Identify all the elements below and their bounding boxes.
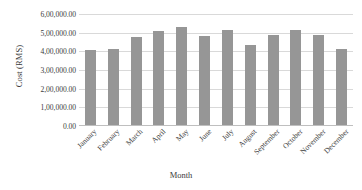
bar bbox=[199, 36, 210, 126]
y-axis-title-text: Cost (RMS) bbox=[14, 45, 24, 87]
bar-slot bbox=[102, 14, 125, 126]
bar bbox=[222, 30, 233, 126]
bar bbox=[268, 35, 279, 126]
bar-slot bbox=[193, 14, 216, 126]
y-axis-tick-label: 3,00,000.00 bbox=[40, 66, 76, 75]
bar-slot bbox=[330, 14, 353, 126]
x-axis-tick-labels: JanuaryFebruaryMarchAprilMayJuneJulyAugu… bbox=[79, 127, 353, 175]
bar bbox=[153, 31, 164, 126]
bar-slot bbox=[79, 14, 102, 126]
bar bbox=[176, 27, 187, 126]
bar-slot bbox=[170, 14, 193, 126]
y-axis-tick-label: 6,00,000.00 bbox=[40, 10, 76, 19]
bar-slot bbox=[125, 14, 148, 126]
y-axis-tick-label: 5,00,000.00 bbox=[40, 28, 76, 37]
bar bbox=[245, 45, 256, 126]
x-axis-title: Month bbox=[0, 170, 362, 180]
bar-slot bbox=[216, 14, 239, 126]
bar-slot bbox=[262, 14, 285, 126]
bar bbox=[290, 30, 301, 127]
bar bbox=[336, 49, 347, 126]
bar-slot bbox=[284, 14, 307, 126]
axis-baseline bbox=[79, 125, 353, 126]
bar bbox=[131, 37, 142, 126]
y-axis-tick-label: 0.00 bbox=[63, 122, 76, 131]
y-axis-tick-label: 4,00,000.00 bbox=[40, 47, 76, 56]
bar-chart: Cost (RMS) 0.001,00,000.002,00,000.003,0… bbox=[0, 0, 362, 190]
y-axis-tick-label: 2,00,000.00 bbox=[40, 84, 76, 93]
bar bbox=[108, 49, 119, 126]
plot-area bbox=[79, 14, 353, 126]
bar bbox=[85, 50, 96, 126]
bar-slot bbox=[147, 14, 170, 126]
bar-slot bbox=[307, 14, 330, 126]
y-axis-tick-labels: 0.001,00,000.002,00,000.003,00,000.004,0… bbox=[24, 0, 76, 132]
bar-slot bbox=[239, 14, 262, 126]
bar bbox=[313, 35, 324, 126]
y-axis-tick-label: 1,00,000.00 bbox=[40, 103, 76, 112]
bar-series bbox=[79, 14, 353, 126]
